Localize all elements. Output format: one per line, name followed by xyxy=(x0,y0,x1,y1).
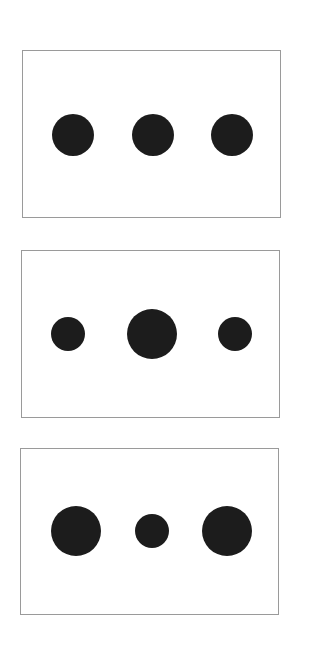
circle-dot xyxy=(51,506,101,556)
circle-dot xyxy=(202,506,252,556)
circle-dot xyxy=(52,114,94,156)
circle-dot xyxy=(218,317,252,351)
circle-dot xyxy=(135,514,169,548)
circle-dot xyxy=(127,309,177,359)
circle-dot xyxy=(211,114,253,156)
circle-dot xyxy=(51,317,85,351)
circle-dot xyxy=(132,114,174,156)
